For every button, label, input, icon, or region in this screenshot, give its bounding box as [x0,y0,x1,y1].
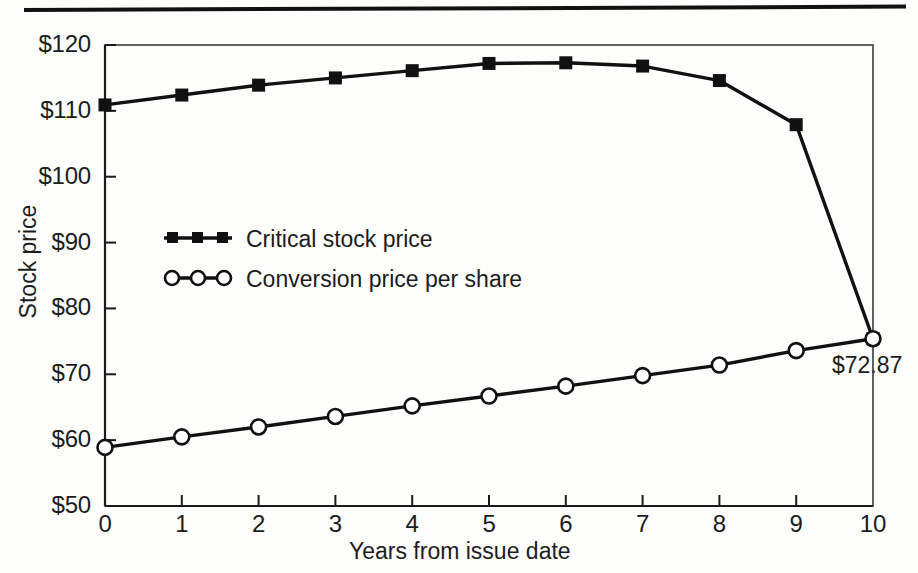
data-point-marker [483,57,496,70]
data-point-marker [252,79,265,92]
legend-swatches [164,232,232,285]
legend-swatch-square-1 [167,232,178,243]
data-point-marker [866,331,881,346]
data-point-marker [175,89,188,102]
series-markers-conversion-price-per-share [98,331,881,455]
data-point-marker [558,379,573,394]
data-point-marker [482,389,497,404]
data-point-marker [405,398,420,413]
data-point-marker [559,56,572,69]
data-point-marker [251,419,266,434]
data-point-marker [636,60,649,73]
data-point-marker [99,98,112,111]
x-axis-ticks [182,495,796,506]
legend-swatch-circle-2 [191,271,205,285]
chart-figure: Stock price Years from issue date $50$60… [0,0,918,573]
data-point-marker [713,74,726,87]
data-point-marker [174,429,189,444]
data-point-marker [790,118,803,131]
legend-swatch-square-3 [217,232,228,243]
data-point-marker [98,440,113,455]
legend-swatch-circle-1 [165,271,179,285]
data-point-marker [789,343,804,358]
series-line-critical-stock-price [105,63,873,339]
data-point-marker [329,71,342,84]
plot-area-svg [0,0,918,573]
data-point-marker [406,64,419,77]
data-point-marker [635,368,650,383]
legend-swatch-square-2 [192,232,203,243]
data-point-marker [328,409,343,424]
series-markers-critical-stock-price [99,56,880,345]
data-point-marker [712,358,727,373]
legend-swatch-circle-3 [217,271,231,285]
